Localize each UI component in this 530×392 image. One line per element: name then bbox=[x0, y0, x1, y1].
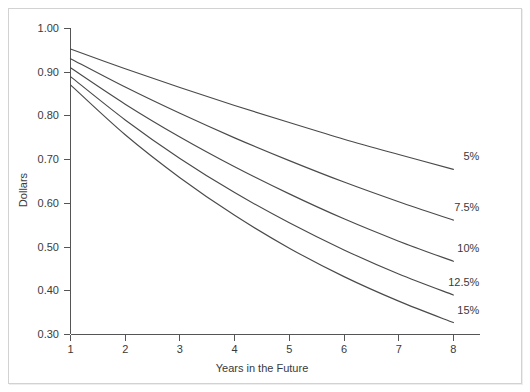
y-tick-label: 0.30 bbox=[38, 328, 59, 340]
x-tick-label: 4 bbox=[232, 343, 238, 355]
y-tick-labels: 1.00 0.90 0.80 0.70 0.60 0.50 0.40 0.30 bbox=[38, 22, 59, 340]
chart-figure: 1.00 0.90 0.80 0.70 0.60 0.50 0.40 0.30 … bbox=[0, 0, 530, 392]
y-tick-label: 0.90 bbox=[38, 66, 59, 78]
series-label-5: 5% bbox=[463, 150, 479, 162]
x-tick-marks bbox=[71, 335, 454, 341]
x-tick-labels: 1 2 3 4 5 6 7 8 bbox=[67, 343, 456, 355]
x-axis-title: Years in the Future bbox=[216, 362, 309, 374]
x-tick-label: 8 bbox=[450, 343, 456, 355]
y-tick-label: 1.00 bbox=[38, 22, 59, 34]
series-line-125 bbox=[71, 77, 454, 295]
series-label-75: 7.5% bbox=[454, 201, 479, 213]
x-tick-label: 7 bbox=[396, 343, 402, 355]
y-tick-label: 0.80 bbox=[38, 109, 59, 121]
series-line-75 bbox=[71, 59, 454, 221]
y-tick-label: 0.70 bbox=[38, 153, 59, 165]
y-axis-title: Dollars bbox=[17, 172, 29, 207]
series-line-5 bbox=[71, 49, 454, 169]
y-tick-label: 0.50 bbox=[38, 241, 59, 253]
series-label-10: 10% bbox=[457, 242, 479, 254]
series-label-15: 15% bbox=[457, 304, 479, 316]
series-line-15 bbox=[71, 85, 454, 323]
x-tick-label: 3 bbox=[177, 343, 183, 355]
y-tick-label: 0.60 bbox=[38, 197, 59, 209]
series-label-group: 5%7.5%10%12.5%15% bbox=[448, 150, 479, 315]
x-tick-label: 2 bbox=[122, 343, 128, 355]
x-tick-label: 1 bbox=[67, 343, 73, 355]
x-tick-label: 6 bbox=[341, 343, 347, 355]
y-tick-marks bbox=[64, 29, 70, 335]
series-label-125: 12.5% bbox=[448, 276, 479, 288]
discount-factor-line-chart: 1.00 0.90 0.80 0.70 0.60 0.50 0.40 0.30 … bbox=[0, 0, 530, 392]
x-tick-label: 5 bbox=[286, 343, 292, 355]
y-tick-label: 0.40 bbox=[38, 284, 59, 296]
curve-group bbox=[71, 49, 454, 323]
